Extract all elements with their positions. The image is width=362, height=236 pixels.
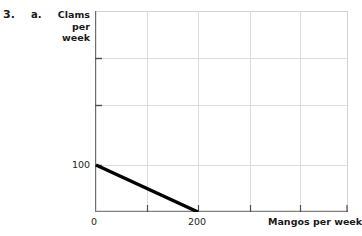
x-axis-tick-label-0: 0 [91, 216, 97, 227]
vertical-gridlines [148, 11, 348, 212]
horizontal-gridlines [95, 12, 348, 166]
x-axis-title: Mangos per week [268, 216, 362, 227]
chart-canvas [95, 11, 348, 212]
y-axis-tick-label-100: 100 [72, 159, 90, 170]
problem-number: 3. [3, 8, 15, 21]
plot-area [95, 11, 348, 212]
x-axis-tick-label-200: 200 [188, 216, 206, 227]
y-axis-title-line1: Clams per [40, 9, 90, 32]
y-axis-title: Clams per week [40, 9, 90, 44]
y-axis-title-line2: week [40, 32, 90, 44]
